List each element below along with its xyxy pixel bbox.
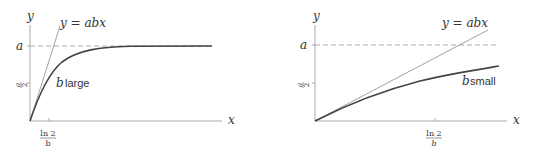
right-curve-label: b small — [462, 74, 496, 88]
right-asymptote-label: a — [300, 38, 307, 52]
svg-text:small: small — [470, 75, 496, 87]
right-plot: y x y = abx a a 2 ln 2 b b small — [296, 9, 520, 148]
svg-text:b: b — [431, 139, 436, 148]
svg-text:2: 2 — [303, 83, 311, 87]
left-x-axis-label: x — [228, 113, 235, 127]
right-ln2b-label: ln 2 b — [426, 129, 442, 148]
left-half-label: a 2 — [14, 82, 29, 88]
right-half-label: a 2 — [296, 82, 311, 88]
svg-text:ln 2: ln 2 — [426, 129, 441, 138]
right-y-axis-label: y — [312, 9, 320, 23]
svg-text:large: large — [65, 77, 89, 89]
left-ln2b-label: ln 2 b — [40, 129, 56, 148]
right-x-axis-label: x — [513, 113, 520, 127]
right-tangent-label: y = abx — [441, 16, 488, 30]
svg-text:2: 2 — [21, 83, 29, 87]
left-asymptote-label: a — [16, 39, 23, 53]
svg-text:b: b — [45, 139, 50, 148]
svg-text:b: b — [462, 74, 470, 88]
svg-text:b: b — [56, 76, 64, 90]
left-y-axis-label: y — [26, 9, 34, 23]
left-plot: y x y = abx a a 2 ln 2 b b large — [14, 9, 235, 148]
svg-text:ln 2: ln 2 — [40, 129, 55, 138]
left-tangent-label: y = abx — [59, 16, 106, 30]
figure: y x y = abx a a 2 ln 2 b b large y x y =… — [0, 0, 537, 152]
left-curve-label: b large — [56, 76, 89, 90]
